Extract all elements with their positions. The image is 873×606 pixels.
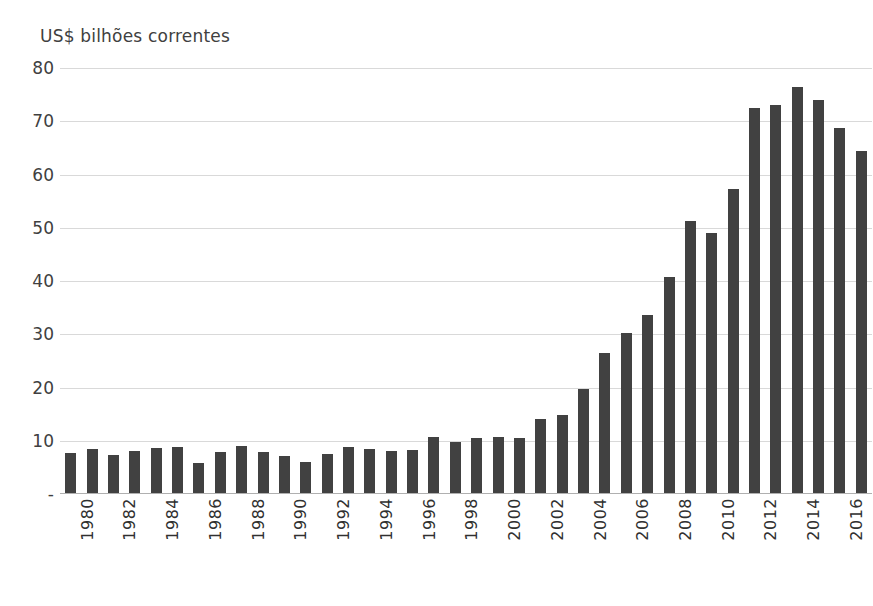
bar	[151, 448, 162, 494]
y-axis-tick-label: 60	[8, 165, 54, 185]
bar	[664, 277, 675, 494]
y-axis-tick-label: 10	[8, 431, 54, 451]
x-axis-tick-label: 2008	[676, 498, 695, 541]
bar	[813, 100, 824, 494]
bar	[557, 415, 568, 494]
plot-area	[60, 68, 872, 494]
y-axis-tick-label: 20	[8, 378, 54, 398]
x-axis: 1980198219841986198819901992199419961998…	[60, 498, 872, 598]
bar	[493, 437, 504, 494]
bar	[706, 233, 717, 494]
x-axis-line	[60, 493, 872, 494]
bar	[193, 463, 204, 494]
x-axis-tick-label: 1996	[420, 498, 439, 541]
bar-chart: US$ bilhões correntes 8070605040302010- …	[0, 0, 873, 606]
bar	[578, 389, 589, 494]
x-axis-tick-label: 1998	[462, 498, 481, 541]
y-axis-tick-label: 40	[8, 271, 54, 291]
bar	[364, 449, 375, 494]
x-axis-tick-label: 2014	[804, 498, 823, 541]
bar	[471, 438, 482, 494]
bar	[599, 353, 610, 494]
bar	[129, 451, 140, 494]
x-axis-tick-label: 1994	[377, 498, 396, 541]
x-axis-tick-label: 1992	[334, 498, 353, 541]
x-axis-tick-label: 2010	[719, 498, 738, 541]
bar	[258, 452, 269, 494]
x-axis-tick-label: 2004	[591, 498, 610, 541]
y-axis: 8070605040302010-	[0, 68, 54, 494]
y-axis-tick-label: 70	[8, 111, 54, 131]
chart-title: US$ bilhões correntes	[40, 26, 230, 46]
bar	[300, 462, 311, 494]
x-axis-tick-label: 2000	[505, 498, 524, 541]
bar	[65, 453, 76, 494]
y-axis-tick-label: 50	[8, 218, 54, 238]
bar	[749, 108, 760, 494]
bar	[322, 454, 333, 494]
bar	[792, 87, 803, 494]
bar	[343, 447, 354, 494]
bar	[621, 333, 632, 494]
x-axis-tick-label: 1988	[249, 498, 268, 541]
bar	[728, 189, 739, 494]
bar	[770, 105, 781, 494]
bar	[428, 437, 439, 495]
bar	[535, 419, 546, 494]
y-axis-tick-label: 30	[8, 324, 54, 344]
y-axis-tick-label: 80	[8, 58, 54, 78]
x-axis-tick-label: 1980	[78, 498, 97, 541]
bar	[407, 450, 418, 494]
y-axis-tick-label: -	[8, 484, 54, 504]
bar-series	[60, 68, 872, 494]
bar	[215, 452, 226, 494]
bar	[450, 442, 461, 494]
bar	[108, 455, 119, 494]
x-axis-tick-label: 1984	[163, 498, 182, 541]
bar	[685, 221, 696, 494]
bar	[642, 315, 653, 494]
bar	[172, 447, 183, 494]
x-axis-tick-label: 2016	[847, 498, 866, 541]
x-axis-tick-label: 1982	[120, 498, 139, 541]
bar	[236, 446, 247, 494]
x-axis-tick-label: 2006	[633, 498, 652, 541]
bar	[514, 438, 525, 494]
x-axis-tick-label: 2002	[548, 498, 567, 541]
x-axis-tick-label: 1986	[206, 498, 225, 541]
bar	[87, 449, 98, 494]
bar	[386, 451, 397, 494]
bar	[279, 456, 290, 494]
x-axis-tick-label: 2012	[761, 498, 780, 541]
bar	[834, 128, 845, 494]
x-axis-tick-label: 1990	[291, 498, 310, 541]
bar	[856, 151, 867, 494]
